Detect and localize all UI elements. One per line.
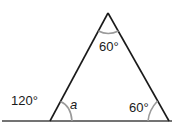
- diagram-canvas: 60° 120° a 60°: [0, 0, 174, 125]
- triangle-diagram: 60° 120° a 60°: [0, 0, 174, 125]
- apex-angle-arc: [99, 31, 119, 34]
- right-angle-label: 60°: [129, 100, 149, 115]
- right-angle-arc: [148, 101, 158, 121]
- apex-angle-label: 60°: [99, 39, 119, 54]
- triangle-left-side: [50, 13, 108, 121]
- interior-angle-a-label: a: [70, 97, 77, 112]
- exterior-angle-label: 120°: [11, 93, 38, 108]
